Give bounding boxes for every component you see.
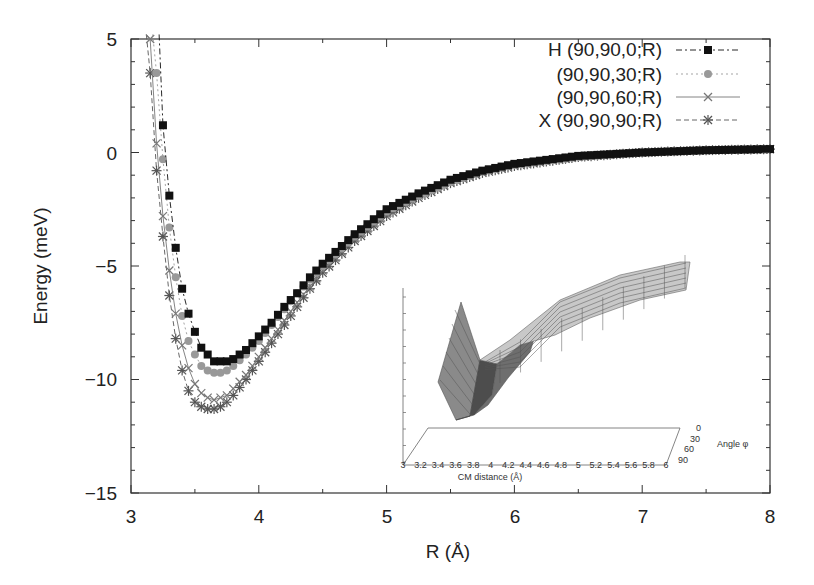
inset-x-tick: 4.2 [502,460,515,470]
x-tick-label: 5 [382,506,393,527]
inset-x-tick: 5.8 [642,460,655,470]
inset-angle-tick: 90 [678,455,688,465]
legend-label-x: X (90,90,90;R) [538,110,662,131]
y-tick-label: 0 [106,143,117,164]
x-tick-label: 3 [126,506,137,527]
y-tick-label: −15 [85,483,117,504]
inset-angle-tick: 0 [696,423,701,433]
inset-x-tick: 3.6 [449,460,462,470]
inset-x-tick: 4.8 [555,460,568,470]
series-0 [159,34,774,365]
x-axis-title: R (Å) [426,541,470,562]
inset-x-tick: 4.4 [519,460,532,470]
x-tick-label: 6 [510,506,521,527]
legend: H (90,90,0;R) (90,90,30;R) (90,90,60;R) … [538,39,740,131]
inset-x-tick: 3 [400,460,405,470]
y-tick-label: −10 [85,369,117,390]
x-tick-label: 7 [638,506,649,527]
inset-x-tick: 3.8 [467,460,480,470]
legend-label-30: (90,90,30;R) [556,64,662,85]
legend-label-60: (90,90,60;R) [556,87,662,108]
inset-x-tick: 4 [488,460,493,470]
inset-surface-rise [480,262,690,364]
inset-x-tick: 5.2 [590,460,603,470]
inset-y-axis-title: Angle φ [717,439,749,449]
y-axis-title: Energy (meV) [30,207,51,324]
inset-x-tick: 5.6 [625,460,638,470]
inset-x-tick: 5 [576,460,581,470]
inset-surface-plot: 33.23.43.63.844.24.44.64.855.25.45.65.86… [400,255,748,482]
inset-angle-tick: 60 [684,444,694,454]
inset-x-tick: 6 [663,460,668,470]
inset-x-tick: 4.6 [537,460,550,470]
inset-x-tick: 5.4 [607,460,620,470]
x-tick-label: 4 [254,506,265,527]
y-tick-label: 5 [106,29,117,50]
legend-label-h: H (90,90,0;R) [548,39,662,60]
inset-x-tick: 3.2 [414,460,427,470]
y-tick-label: −5 [95,256,117,277]
chart: 3 4 5 6 7 8 5 0 −5 −10 −15 R (Å) Energy … [0,0,814,585]
inset-x-tick: 3.4 [432,460,445,470]
inset-x-axis-title: CM distance (Å) [458,472,523,482]
legend-samples [676,46,740,125]
inset-angle-tick: 30 [690,434,700,444]
x-tick-label: 8 [765,506,776,527]
